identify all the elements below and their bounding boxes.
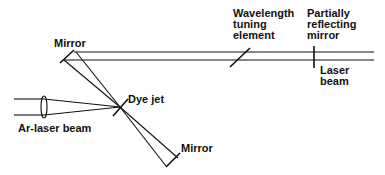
label-dye-jet: Dye jet (128, 93, 164, 105)
label-ar-laser-beam: Ar-laser beam (18, 122, 92, 134)
bottom-mirror (166, 153, 180, 167)
label-wavelength-3: element (233, 29, 275, 41)
ar-beam-focus-upper (44, 99, 120, 107)
fold-beam-2 (64, 60, 120, 107)
top-mirror (60, 50, 74, 63)
ar-beam-focus-lower (44, 107, 120, 115)
label-partial-3: mirror (307, 29, 340, 41)
dye-laser-diagram: Mirror Wavelength tuning element Partial… (0, 0, 385, 175)
label-laser-2: beam (320, 75, 349, 87)
label-mirror-bottom: Mirror (181, 142, 214, 154)
fold-beam-4 (120, 107, 166, 166)
fold-beam-3 (120, 107, 178, 158)
label-mirror-top: Mirror (54, 37, 87, 49)
wavelength-tuning-element (230, 48, 250, 67)
